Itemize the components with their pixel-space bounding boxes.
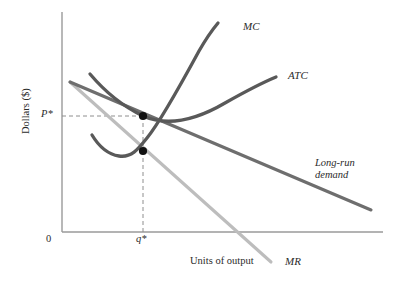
chart-canvas [0,0,394,284]
economics-chart-figure: MC ATC Long-run demand MR Units of outpu… [0,0,394,284]
x-axis-title: Units of output [190,255,254,267]
origin-label: 0 [46,233,51,245]
demand-label-line-1: Long-run [315,157,355,169]
atc-curve-label: ATC [288,69,308,82]
mr-curve-label: MR [285,255,301,268]
y-tick-label-pstar: P* [41,108,53,120]
demand-label-line-2: demand [315,169,355,181]
x-tick-label-qstar: q* [136,233,147,245]
mr-curve [70,82,271,262]
mc-curve-label: MC [243,20,260,33]
demand-curve [70,82,371,210]
y-axis-title: Dollars ($) [20,68,32,154]
demand-curve-label: Long-run demand [315,157,355,182]
mc-mr-intersection-marker [139,147,147,155]
tangency-point-marker [139,112,147,120]
